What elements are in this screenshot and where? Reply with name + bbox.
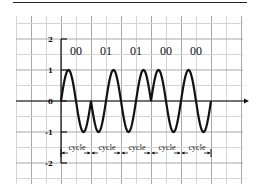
x-axis-arrow-icon bbox=[244, 99, 249, 104]
y-tick-label: 2 bbox=[48, 35, 53, 44]
bit-label: 00 bbox=[70, 44, 82, 58]
cycle-label: cycle bbox=[129, 143, 146, 152]
bit-label: 00 bbox=[160, 44, 172, 58]
bit-label: 01 bbox=[100, 44, 112, 58]
cycle-label: cycle bbox=[159, 143, 176, 152]
cycle-label: cycle bbox=[99, 143, 116, 152]
y-tick-label: -1 bbox=[45, 128, 53, 137]
arrowhead-right-icon bbox=[148, 151, 151, 154]
cycle-label: cycle bbox=[69, 143, 86, 152]
y-tick-label: 0 bbox=[48, 97, 53, 106]
waveform-diagram: 00 01 01 00 00 2 1 0 -1 -2 cycle cycle c… bbox=[0, 0, 258, 194]
bit-label: 00 bbox=[190, 44, 202, 58]
y-tick-label: 1 bbox=[48, 66, 53, 75]
cycle-label: cycle bbox=[189, 143, 206, 152]
arrowhead-right-icon bbox=[178, 151, 181, 154]
bit-label: 01 bbox=[130, 44, 142, 58]
arrowhead-right-icon bbox=[118, 151, 121, 154]
arrowhead-right-icon bbox=[88, 151, 91, 154]
bit-labels: 00 01 01 00 00 bbox=[70, 44, 202, 58]
arrowhead-right-icon bbox=[208, 151, 211, 154]
y-tick-label: -2 bbox=[45, 159, 53, 168]
